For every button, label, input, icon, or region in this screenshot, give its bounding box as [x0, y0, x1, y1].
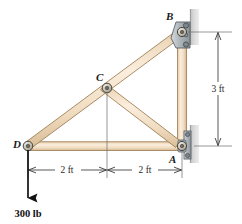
dimension-height-A-B: 3 ft — [206, 33, 231, 146]
wall-support-icon-top — [190, 9, 199, 45]
member-web-CA — [101, 84, 181, 148]
dimension-span-D-C: 2 ft — [29, 163, 107, 175]
pin-joint-icon-D — [23, 141, 33, 151]
joint-label-B: B — [165, 10, 173, 22]
joint-label-C: C — [96, 71, 104, 83]
load-label: 300 lb — [14, 208, 41, 219]
pin-joint-icon-B — [177, 27, 186, 36]
joint-label-A: A — [168, 153, 176, 165]
pin-joint-icon-C — [102, 83, 112, 93]
dimension-label-span-D-C: 2 ft — [61, 165, 74, 175]
member-bottom-chord-DA — [28, 142, 182, 151]
member-right-chord-BA — [178, 32, 187, 146]
truss-diagram-canvas: A B C D 2 ft 2 ft 3 ft 300 lb — [0, 0, 242, 224]
truss-figure: A B C D 2 ft 2 ft 3 ft 300 lb — [0, 0, 242, 224]
dimension-label-height-A-B: 3 ft — [212, 84, 225, 94]
pin-joint-icon-A — [177, 141, 186, 150]
dimension-label-span-C-A: 2 ft — [139, 165, 152, 175]
joint-label-D: D — [12, 138, 21, 150]
